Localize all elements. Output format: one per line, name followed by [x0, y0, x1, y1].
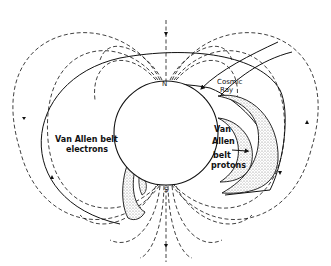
protons-label-2: Allen: [212, 137, 235, 147]
protons-label-1: Van: [214, 125, 231, 135]
diagram-graphic: [0, 0, 331, 266]
electrons-label-1: Van Allen belt: [55, 135, 118, 145]
south-pole-label: S: [164, 186, 168, 195]
protons-label-3: belt: [213, 151, 231, 161]
north-pole-label: N: [162, 80, 167, 89]
earth: [114, 81, 218, 185]
protons-label-4: protons: [211, 161, 246, 171]
electrons-label-2: electrons: [66, 145, 108, 155]
van-allen-diagram: N S Cosmic Ray Van Allen belt electrons …: [0, 0, 331, 266]
cosmic-ray-label-2: Ray: [220, 86, 233, 95]
